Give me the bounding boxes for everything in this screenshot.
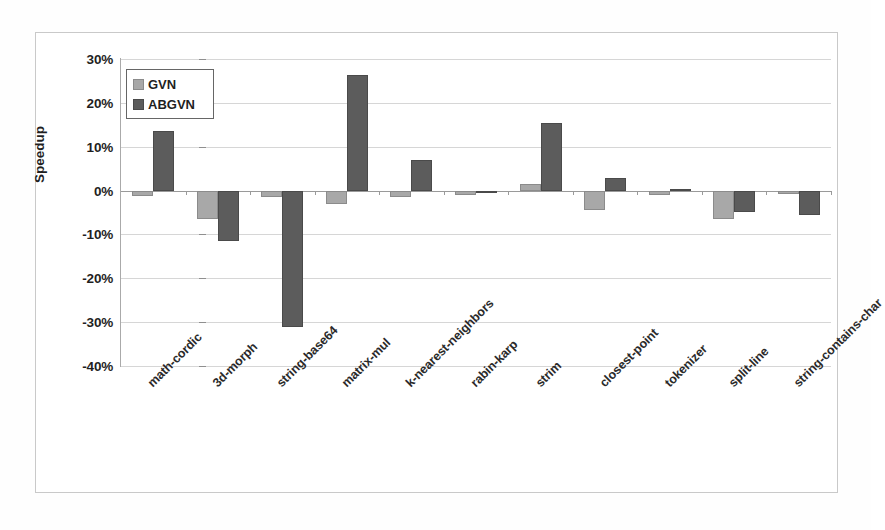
bar-abgvn-matrix-mul xyxy=(347,75,368,190)
category-label-strim: strim xyxy=(533,359,564,390)
bar-gvn-string-base64 xyxy=(261,191,282,198)
bar-gvn-matrix-mul xyxy=(326,191,347,204)
legend-swatch-abgvn xyxy=(133,99,144,110)
category-label-rabin-karp: rabin-karp xyxy=(468,337,520,389)
x-tick-mark xyxy=(379,191,380,195)
x-tick-mark xyxy=(702,191,703,195)
bar-gvn-tokenizer xyxy=(649,191,670,195)
bar-abgvn-math-cordic xyxy=(153,131,174,190)
y-tick-label: 0% xyxy=(94,183,113,198)
gridline-neg20 xyxy=(121,278,831,279)
x-tick-mark xyxy=(508,191,509,195)
category-label-matrix-mul: matrix-mul xyxy=(339,336,393,390)
chart-frame: Speedup 30%20%10%0%-10%-20%-30%-40% math… xyxy=(35,32,838,493)
bar-gvn-strim xyxy=(520,184,541,191)
bar-abgvn-tokenizer xyxy=(670,189,691,191)
bar-abgvn-3d-morph xyxy=(218,191,239,241)
y-tick-label: 30% xyxy=(87,52,113,67)
y-tick-label: 10% xyxy=(87,139,113,154)
y-tick-mark xyxy=(199,366,206,367)
x-tick-mark xyxy=(573,191,574,195)
gridline-20 xyxy=(121,103,831,104)
bar-gvn-3d-morph xyxy=(197,191,218,220)
bar-gvn-math-cordic xyxy=(132,191,153,196)
y-tick-mark xyxy=(199,147,206,148)
bar-gvn-k-nearest-neighbors xyxy=(390,191,411,198)
bar-gvn-split-line xyxy=(713,191,734,220)
x-tick-mark xyxy=(766,191,767,195)
bar-abgvn-rabin-karp xyxy=(476,191,497,194)
x-tick-mark xyxy=(637,191,638,195)
bar-abgvn-k-nearest-neighbors xyxy=(411,160,432,191)
x-tick-mark xyxy=(444,191,445,195)
legend-item-gvn: GVN xyxy=(133,74,207,94)
y-tick-mark xyxy=(199,278,206,279)
category-label-string-base64: string-base64 xyxy=(274,323,340,389)
bar-abgvn-split-line xyxy=(734,191,755,213)
category-label-math-cordic: math-cordic xyxy=(145,330,205,390)
legend-item-abgvn: ABGVN xyxy=(133,94,207,114)
y-tick-label: -10% xyxy=(82,227,113,242)
x-tick-mark xyxy=(250,191,251,195)
legend-label-gvn: GVN xyxy=(148,77,176,92)
y-tick-label: -30% xyxy=(82,315,113,330)
plot-area: 30%20%10%0%-10%-20%-30%-40% math-cordic3… xyxy=(121,59,831,366)
y-axis-title: Speedup xyxy=(32,126,47,183)
x-tick-mark xyxy=(831,191,832,195)
bar-gvn-string-contains-char xyxy=(778,191,799,195)
y-tick-label: -20% xyxy=(82,271,113,286)
x-tick-mark xyxy=(186,191,187,195)
category-label-3d-morph: 3d-morph xyxy=(210,340,260,390)
y-tick-mark xyxy=(199,234,206,235)
chart-legend: GVN ABGVN xyxy=(126,69,214,119)
y-tick-label: -40% xyxy=(82,359,113,374)
y-tick-label: 20% xyxy=(87,95,113,110)
gridline-10 xyxy=(121,147,831,148)
x-tick-mark xyxy=(315,191,316,195)
bar-abgvn-string-base64 xyxy=(282,191,303,327)
legend-label-abgvn: ABGVN xyxy=(148,97,195,112)
y-tick-mark xyxy=(199,322,206,323)
bar-abgvn-closest-point xyxy=(605,178,626,190)
category-label-closest-point: closest-point xyxy=(597,326,661,390)
gridline-30 xyxy=(121,59,831,60)
category-label-split-line: split-line xyxy=(726,344,772,390)
y-tick-mark xyxy=(199,59,206,60)
bar-abgvn-strim xyxy=(541,123,562,191)
bar-abgvn-string-contains-char xyxy=(799,191,820,215)
legend-swatch-gvn xyxy=(133,79,144,90)
bar-gvn-rabin-karp xyxy=(455,191,476,195)
bar-gvn-closest-point xyxy=(584,191,605,211)
